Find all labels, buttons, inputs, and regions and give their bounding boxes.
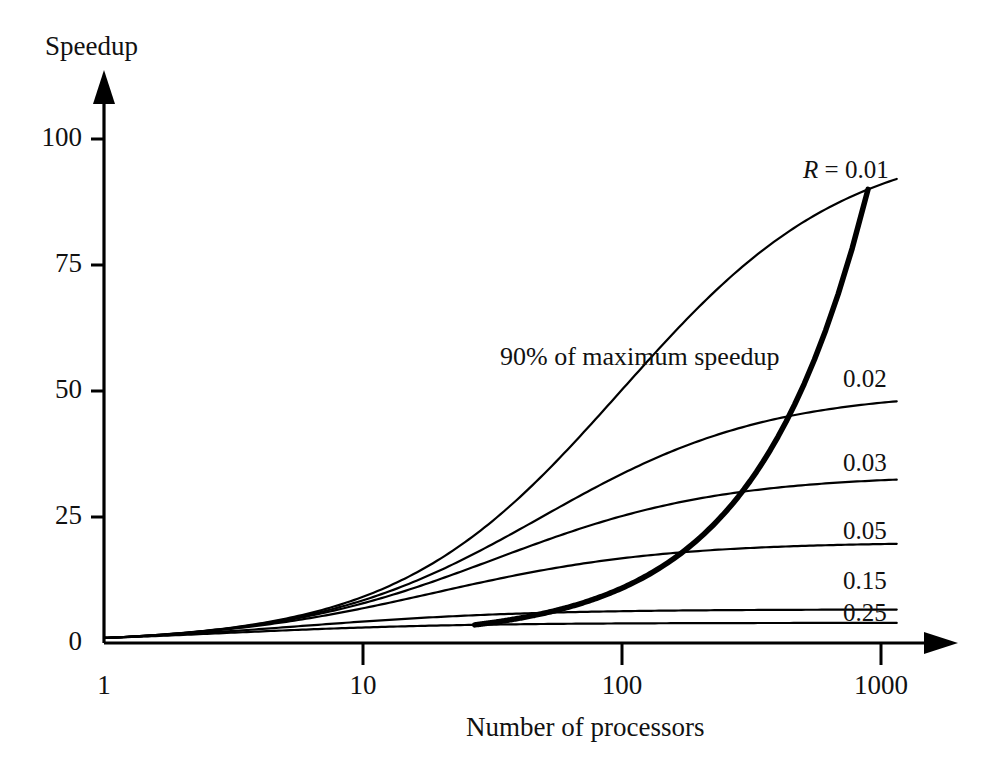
series-label-0-02: 0.02 <box>843 366 887 391</box>
y-tick-label-0: 0 <box>12 628 82 655</box>
y-tick-label-100: 100 <box>12 124 82 151</box>
series-label-r-0-01: R = 0.01 <box>803 157 889 182</box>
chart-figure: Speedup 100 75 50 25 0 1 10 100 1000 Num… <box>0 0 994 781</box>
x-axis-title: Number of processors <box>466 714 704 741</box>
series-label-0-05: 0.05 <box>843 518 887 543</box>
y-tick-label-75: 75 <box>12 250 82 277</box>
x-tick-label-100: 100 <box>577 672 667 699</box>
series-label-0-03: 0.03 <box>843 450 887 475</box>
series-label-r-value: = 0.01 <box>818 156 888 183</box>
y-tick-label-25: 25 <box>12 502 82 529</box>
series-label-r-symbol: R <box>803 156 818 183</box>
x-tick-label-10: 10 <box>318 672 408 699</box>
x-axis <box>104 632 958 654</box>
x-axis-ticks <box>363 643 881 665</box>
x-tick-label-1: 1 <box>59 672 149 699</box>
ninety-percent-annotation: 90% of maximum speedup <box>500 344 779 370</box>
y-axis <box>93 70 115 643</box>
curve-90-of-maximum-speedup <box>475 189 868 624</box>
y-axis-ticks <box>91 139 104 517</box>
y-axis-title: Speedup <box>45 33 138 60</box>
y-tick-label-50: 50 <box>12 376 82 403</box>
series-label-0-15: 0.15 <box>843 568 887 593</box>
series-label-0-25: 0.25 <box>843 600 887 625</box>
curve-r-0-01 <box>104 179 897 638</box>
data-curves <box>104 179 897 638</box>
x-tick-label-1000: 1000 <box>836 672 926 699</box>
